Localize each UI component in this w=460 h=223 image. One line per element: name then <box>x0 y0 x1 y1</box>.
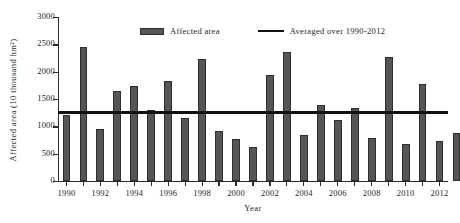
legend-bar-swatch-icon <box>140 28 164 35</box>
x-axis-tick <box>235 182 236 186</box>
x-axis-tick <box>371 182 372 186</box>
x-axis-tick-label: 2004 <box>295 188 313 199</box>
bar-2011 <box>419 84 427 181</box>
bar-2006 <box>334 120 342 181</box>
x-axis-tick <box>269 182 270 186</box>
x-axis-tick <box>134 182 135 186</box>
legend-item-affected-area: Affected area <box>140 26 220 36</box>
x-axis-tick-label: 1996 <box>159 188 177 199</box>
x-axis-tick <box>303 182 304 186</box>
y-axis-tick-label: 500 <box>42 148 55 159</box>
x-axis-tick <box>168 182 169 186</box>
x-axis-tick <box>320 182 321 186</box>
y-axis-tick-label: 1500 <box>37 93 55 104</box>
x-axis-tick-label: 1990 <box>58 188 76 199</box>
y-axis-tick-label: 1000 <box>37 120 55 131</box>
x-axis-tick-label: 2000 <box>227 188 245 199</box>
x-axis-tick <box>100 182 101 186</box>
x-axis-tick-label: 2006 <box>329 188 347 199</box>
bar-1997 <box>181 118 189 181</box>
average-line <box>58 111 448 114</box>
bar-1996 <box>164 81 172 181</box>
x-axis-title: Year <box>58 203 448 213</box>
chart-legend: Affected area Averaged over 1990-2012 <box>140 26 385 36</box>
bar-2009 <box>385 57 393 181</box>
x-axis-tick <box>151 182 152 186</box>
x-axis-tick-label: 1992 <box>91 188 109 199</box>
x-axis-tick-label: 2002 <box>261 188 279 199</box>
x-axis-tick-label: 1998 <box>193 188 211 199</box>
y-axis-tick-label: 2000 <box>37 66 55 77</box>
y-axis-tick-label: 0 <box>51 175 55 186</box>
bar-2012 <box>436 141 444 181</box>
bar-2000 <box>232 139 240 181</box>
y-axis-tick-label: 2500 <box>37 38 55 49</box>
y-axis-title: Affected area (10 thousand hm²) <box>6 10 20 190</box>
x-axis-tick <box>439 182 440 186</box>
legend-item-average: Averaged over 1990-2012 <box>258 26 386 36</box>
plot-area: 050010001500200025003000 199019921994199… <box>58 17 448 182</box>
x-axis-tick <box>405 182 406 186</box>
legend-line-swatch-icon <box>258 30 284 33</box>
bar-1990 <box>63 115 71 181</box>
x-axis-tick <box>252 182 253 186</box>
x-axis-tick <box>66 182 67 186</box>
bar-1993 <box>113 91 121 181</box>
x-axis-tick <box>185 182 186 186</box>
x-axis-tick <box>388 182 389 186</box>
x-axis-tick <box>218 182 219 186</box>
bar-1998 <box>198 59 206 181</box>
x-axis-tick-label: 1994 <box>125 188 143 199</box>
y-axis-tick-label: 3000 <box>37 11 55 22</box>
x-axis-tick-label: 2008 <box>363 188 381 199</box>
x-axis-tick <box>354 182 355 186</box>
bar-1999 <box>215 131 223 181</box>
bar-2001 <box>249 147 257 181</box>
x-axis-tick <box>202 182 203 186</box>
bar-2003 <box>283 52 291 181</box>
x-axis-tick <box>422 182 423 186</box>
bar-2010 <box>402 144 410 181</box>
x-axis-tick <box>117 182 118 186</box>
bar-2007 <box>351 108 359 181</box>
bar-2002 <box>266 75 274 181</box>
x-axis-tick <box>286 182 287 186</box>
x-axis-tick <box>83 182 84 186</box>
bar-1992 <box>96 129 104 181</box>
bar-chart: Affected area (10 thousand hm²) 05001000… <box>0 0 460 223</box>
bar-undefined <box>453 133 460 181</box>
bar-2004 <box>300 135 308 181</box>
legend-label-average: Averaged over 1990-2012 <box>290 26 386 36</box>
y-axis-line <box>58 17 59 182</box>
legend-label-affected-area: Affected area <box>170 26 220 36</box>
x-axis-tick-label: 2010 <box>397 188 415 199</box>
x-axis-tick <box>337 182 338 186</box>
bar-2005 <box>317 105 325 181</box>
bar-1995 <box>147 110 155 181</box>
x-axis-tick-label: 2012 <box>431 188 449 199</box>
bar-2008 <box>368 138 376 181</box>
bar-1994 <box>130 86 138 181</box>
